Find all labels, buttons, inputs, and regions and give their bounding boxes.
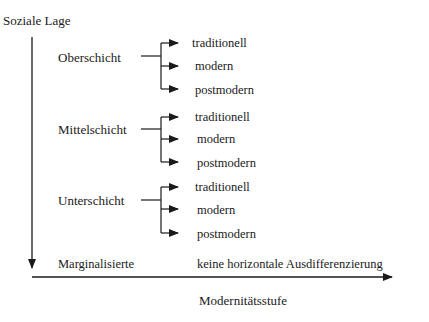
bracket-oberschicht xyxy=(141,43,178,89)
branch-label: traditionell xyxy=(195,180,250,195)
class-label-marginalisierte: Marginalisierte xyxy=(58,257,134,272)
bracket-unterschicht xyxy=(141,187,178,233)
x-axis-label: Modernitätsstufe xyxy=(199,293,287,308)
branch-label: traditionell xyxy=(195,110,250,125)
class-label-oberschicht: Oberschicht xyxy=(58,50,121,65)
class-label-unterschicht: Unterschicht xyxy=(58,193,124,208)
branch-label: postmodern xyxy=(195,83,254,98)
branch-label: modern xyxy=(197,132,235,147)
branch-label: postmodern xyxy=(197,227,256,242)
bracket-mittelschicht xyxy=(141,117,178,162)
branch-label: traditionell xyxy=(192,36,247,51)
y-axis-label: Soziale Lage xyxy=(3,13,71,28)
branch-label: modern xyxy=(195,59,233,74)
branch-label: modern xyxy=(197,203,235,218)
class-label-mittelschicht: Mittelschicht xyxy=(58,122,127,137)
branch-label: postmodern xyxy=(197,156,256,171)
no-differentiation-note: keine horizontale Ausdifferenzierung xyxy=(197,257,383,272)
